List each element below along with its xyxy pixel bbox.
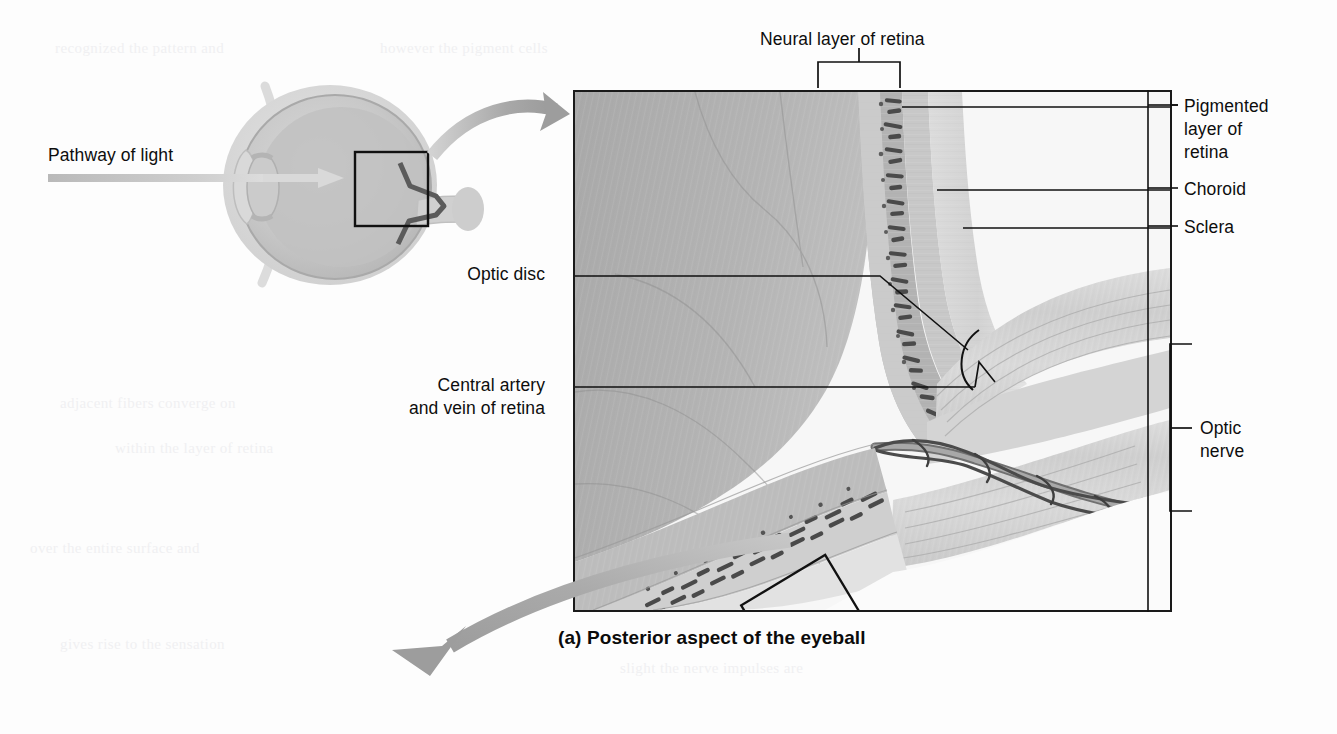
posterior-eyeball-panel — [573, 90, 1172, 612]
eyeball-overview-illustration — [0, 0, 600, 340]
page-bleed-text: adjacent fibers converge on — [60, 395, 236, 412]
label-pigmented-layer-of-retina: Pigmented layer of retina — [1184, 95, 1269, 164]
page-bleed-text: gives rise to the sensation — [60, 636, 225, 653]
label-neural-layer-of-retina: Neural layer of retina — [760, 28, 925, 51]
optic-nerve-bracket — [1170, 344, 1192, 511]
label-central-artery-and-vein: Central artery and vein of retina — [280, 374, 545, 420]
zoom-arrow-bottom-head — [392, 626, 466, 676]
label-optic-nerve: Optic nerve — [1200, 417, 1244, 463]
label-optic-disc: Optic disc — [300, 263, 545, 286]
pathway-of-light-label: Pathway of light — [48, 144, 173, 167]
page-bleed-text: over the entire surface and — [30, 540, 200, 557]
page-bleed-text: within the layer of retina — [115, 440, 274, 457]
neural-layer-bracket — [818, 48, 900, 88]
optic-nerve-stump — [452, 187, 484, 231]
zoom-arrow-top — [432, 106, 556, 156]
panel-illustration — [575, 92, 1170, 610]
figure-canvas: recognized the pattern and however the p… — [0, 0, 1337, 734]
page-bleed-text: slight the nerve impulses are — [620, 660, 803, 677]
lens — [247, 154, 279, 220]
figure-caption: (a) Posterior aspect of the eyeball — [558, 627, 866, 649]
label-choroid: Choroid — [1184, 178, 1246, 201]
label-sclera: Sclera — [1184, 216, 1234, 239]
